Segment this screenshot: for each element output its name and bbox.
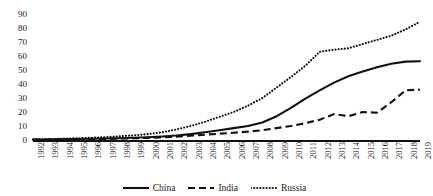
x-axis-tick-label: 2002 <box>180 142 189 159</box>
legend-item-russia[interactable]: Russia <box>251 183 306 193</box>
x-axis-tick-label: 1997 <box>109 142 118 159</box>
x-axis-tick-label: 2014 <box>352 142 361 159</box>
x-axis-tick-label: 2003 <box>195 142 204 159</box>
x-axis-tick-label: 2011 <box>309 142 318 159</box>
x-axis-tick-label: 2006 <box>238 142 247 159</box>
legend-swatch-solid-icon <box>123 184 149 192</box>
legend-label: Russia <box>281 183 306 193</box>
x-axis-tick-label: 1992 <box>37 142 46 159</box>
x-axis-tick-label: 1999 <box>137 142 146 159</box>
x-axis-tick-label: 2010 <box>295 142 304 159</box>
legend-swatch-dashed-icon <box>188 184 214 192</box>
x-axis-tick-label: 2004 <box>209 142 218 159</box>
x-axis-tick-label: 2018 <box>410 142 419 159</box>
legend-swatch-dotted-icon <box>251 184 277 192</box>
legend-item-india[interactable]: India <box>188 183 238 193</box>
x-axis-tick-label: 1993 <box>51 142 60 159</box>
x-axis-tick-label: 2007 <box>252 142 261 159</box>
x-axis-tick-label: 2008 <box>266 142 275 159</box>
x-axis-tick-label: 2000 <box>152 142 161 159</box>
x-axis-tick-label: 2016 <box>381 142 390 159</box>
x-axis-tick-label: 1998 <box>123 142 132 159</box>
x-axis-tick-label: 1996 <box>94 142 103 159</box>
x-axis-labels: 1992199319941995199619971998199920002001… <box>33 142 420 184</box>
x-axis-tick-label: 2019 <box>424 142 433 159</box>
x-axis-tick-label: 2015 <box>367 142 376 159</box>
x-axis-tick-label: 2017 <box>395 142 404 159</box>
legend-item-china[interactable]: China <box>123 183 176 193</box>
series-china <box>33 61 420 139</box>
legend-label: India <box>218 183 238 193</box>
chart-legend: ChinaIndiaRussia <box>0 180 429 196</box>
x-axis-tick-label: 1995 <box>80 142 89 159</box>
x-axis-tick-label: 2009 <box>281 142 290 159</box>
x-axis-tick-label: 2013 <box>338 142 347 159</box>
x-axis-tick-label: 2005 <box>223 142 232 159</box>
legend-label: China <box>153 183 176 193</box>
series-russia <box>33 22 420 140</box>
x-axis-tick-label: 2012 <box>324 142 333 159</box>
x-axis-tick-label: 1994 <box>66 142 75 159</box>
x-axis-tick-label: 2001 <box>166 142 175 159</box>
